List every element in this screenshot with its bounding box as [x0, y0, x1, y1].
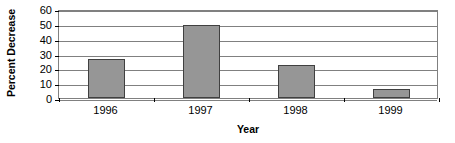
x-axis-tick-mark: [249, 98, 250, 102]
x-axis-tick-mark: [154, 98, 155, 102]
bar: [373, 89, 410, 98]
gridline: [59, 11, 437, 12]
x-axis-tick-mark: [344, 98, 345, 102]
gridline: [59, 100, 437, 101]
y-axis-tick-mark: [55, 56, 59, 57]
x-axis-tick-mark: [439, 98, 440, 102]
y-axis-tick-mark: [55, 41, 59, 42]
x-axis-tick-labels: 1996199719981999: [58, 104, 438, 120]
y-axis-tick-label: 50: [40, 19, 52, 31]
y-axis-tick-label: 30: [40, 49, 52, 61]
y-axis-tick-label: 10: [40, 78, 52, 90]
x-axis-tick-label: 1999: [378, 104, 402, 116]
plot-area: [58, 10, 438, 99]
y-axis-tick-mark: [55, 26, 59, 27]
y-axis-tick-label: 40: [40, 34, 52, 46]
y-axis-title: Percent Decrease: [0, 0, 22, 105]
x-axis-tick-mark: [59, 98, 60, 102]
y-axis-tick-mark: [55, 85, 59, 86]
gridline: [59, 26, 437, 27]
y-axis-title-text: Percent Decrease: [5, 8, 17, 96]
gridline: [59, 41, 437, 42]
bar: [183, 25, 220, 98]
gridline: [59, 56, 437, 57]
x-axis-tick-label: 1996: [93, 104, 117, 116]
bar-chart: Percent Decrease 0102030405060 199619971…: [0, 0, 455, 143]
y-axis-tick-labels: 0102030405060: [24, 10, 56, 99]
y-axis-tick-label: 0: [46, 93, 52, 105]
y-axis-tick-mark: [55, 11, 59, 12]
bar: [88, 59, 125, 98]
y-axis-tick-mark: [55, 70, 59, 71]
y-axis-tick-label: 20: [40, 63, 52, 75]
x-axis-title: Year: [58, 123, 438, 135]
bar: [278, 65, 315, 98]
x-axis-tick-label: 1997: [188, 104, 212, 116]
y-axis-tick-label: 60: [40, 4, 52, 16]
x-axis-tick-label: 1998: [283, 104, 307, 116]
